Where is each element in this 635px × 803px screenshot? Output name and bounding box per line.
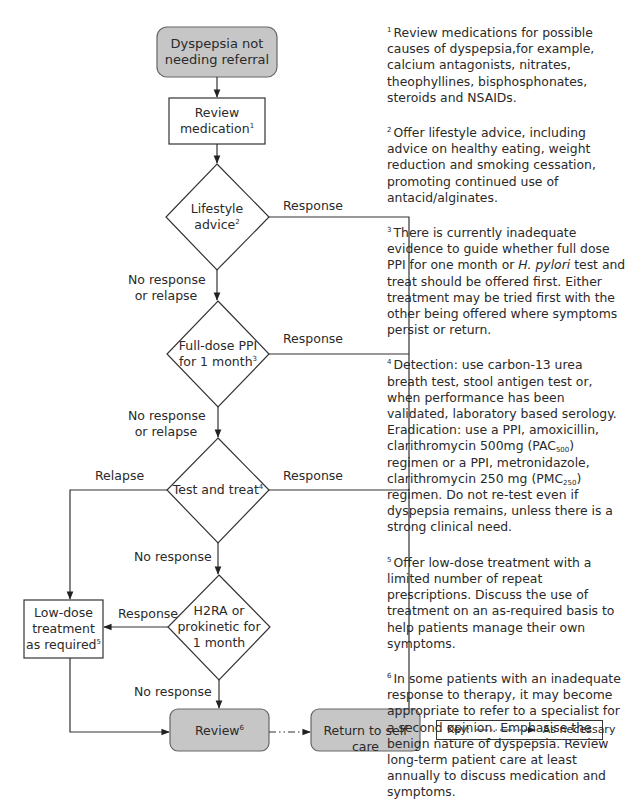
footnote-2: 2Offer lifestyle advice, including advic… bbox=[387, 122, 627, 206]
low-dose-node: Low-dose treatment as required5 bbox=[24, 605, 103, 653]
test-relapse-label: Relapse bbox=[95, 468, 144, 484]
footnotes: 1Review medications for possible causes … bbox=[387, 22, 627, 803]
h2ra-response-label: Response bbox=[118, 606, 178, 622]
dash-dot-arrow-icon bbox=[476, 726, 536, 734]
review-node: Review6 bbox=[170, 723, 269, 739]
footnote-1: 1Review medications for possible causes … bbox=[387, 22, 627, 106]
test-treat-node: Test and treat4 bbox=[172, 482, 264, 498]
start-node: Dyspepsia not needing referral bbox=[157, 36, 277, 68]
lifestyle-node: Lifestyle advice2 bbox=[177, 201, 257, 233]
review-medication-node: Review medication1 bbox=[169, 105, 265, 137]
ppi-no-response-label: No response or relapse bbox=[128, 408, 204, 440]
ppi-node: Full-dose PPI for 1 month3 bbox=[172, 338, 264, 370]
ppi-response-label: Response bbox=[283, 331, 343, 347]
h2ra-node: H2RA or prokinetic for 1 month bbox=[172, 603, 266, 651]
test-no-response-label: No response bbox=[134, 549, 212, 565]
test-response-label: Response bbox=[283, 468, 343, 484]
footnote-4: 4Detection: use carbon-13 urea breath te… bbox=[387, 354, 627, 535]
legend-key: Key: As necessary bbox=[436, 720, 603, 740]
footnote-5: 5Offer low-dose treatment with a limited… bbox=[387, 552, 627, 652]
lifestyle-response-label: Response bbox=[283, 198, 343, 214]
key-label: Key: bbox=[447, 723, 470, 736]
h2ra-no-response-label: No response bbox=[134, 684, 212, 700]
lifestyle-no-response-label: No response or relapse bbox=[128, 272, 204, 304]
key-meaning: As necessary bbox=[543, 723, 616, 736]
footnote-3: 3There is currently inadequate evidence … bbox=[387, 222, 627, 338]
